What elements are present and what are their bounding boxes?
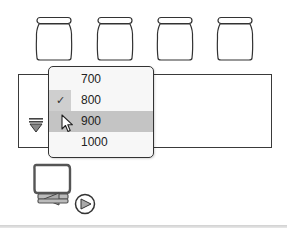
filter-triangle-icon[interactable]	[28, 117, 44, 133]
jar-icon	[155, 16, 195, 62]
bottom-divider	[0, 225, 287, 228]
mouse-pointer-icon	[61, 114, 75, 134]
menu-item-800[interactable]: ✓ 800	[49, 90, 153, 111]
monitor-frame-icon	[34, 165, 70, 193]
check-column	[49, 69, 71, 90]
menu-item-700[interactable]: 700	[49, 69, 153, 90]
menu-item-label: 1000	[81, 135, 108, 149]
jar-icon	[215, 16, 255, 62]
menu-item-label: 800	[81, 93, 101, 107]
checkmark-icon: ✓	[49, 90, 71, 111]
check-column	[49, 132, 71, 153]
playback-device[interactable]	[33, 163, 99, 217]
value-dropdown-menu[interactable]: 700 ✓ 800 900 1000	[48, 66, 154, 158]
menu-item-label: 900	[81, 114, 101, 128]
menu-item-label: 700	[81, 72, 101, 86]
jar-icon	[95, 16, 135, 62]
menu-item-1000[interactable]: 1000	[49, 132, 153, 153]
jar-icon	[34, 16, 74, 62]
